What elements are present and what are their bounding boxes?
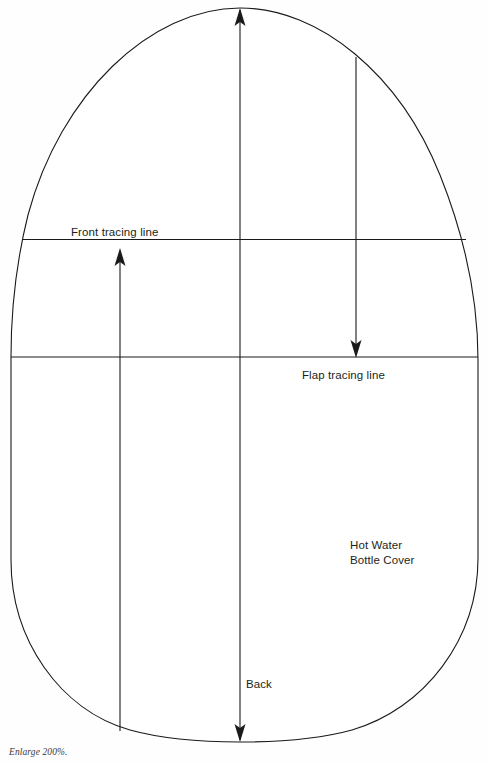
back-label: Back [246, 677, 272, 691]
front-tracing-line-label: Front tracing line [71, 225, 158, 239]
flap-tracing-line-label: Flap tracing line [302, 368, 385, 382]
part-name-label: Hot Water Bottle Cover [350, 538, 414, 568]
enlarge-note: Enlarge 200%. [9, 745, 67, 759]
pattern-outline-svg [0, 0, 489, 762]
bottle-cover-outline [11, 8, 478, 742]
part-name-line-1: Hot Water [350, 538, 414, 553]
part-name-line-2: Bottle Cover [350, 553, 414, 568]
pattern-diagram: Front tracing line Flap tracing line Hot… [0, 0, 489, 762]
